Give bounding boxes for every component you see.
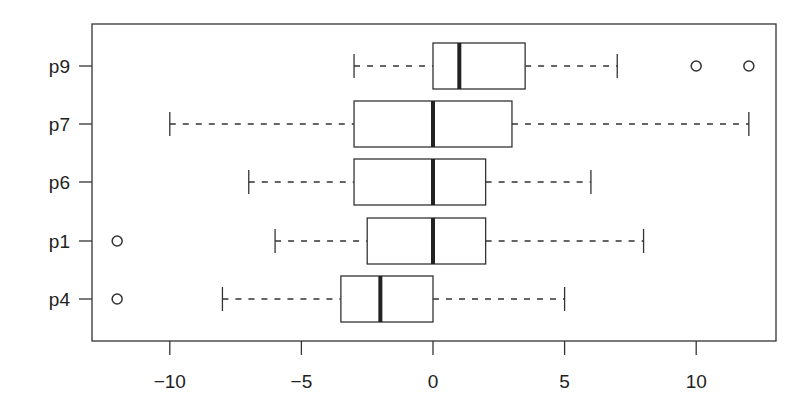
x-tick-label: −10	[154, 371, 186, 392]
y-tick-label: p4	[49, 289, 71, 310]
x-tick-label: 10	[686, 371, 707, 392]
y-axis: p9p7p6p1p4	[49, 56, 92, 310]
box-p1	[112, 218, 643, 264]
box-p9	[354, 43, 754, 89]
boxplot-chart: p9p7p6p1p4 −10−50510	[0, 0, 803, 417]
outlier-point	[691, 61, 701, 71]
outlier-point	[744, 61, 754, 71]
y-tick-label: p7	[49, 114, 70, 135]
box-p6	[249, 159, 591, 205]
iqr-box	[433, 43, 525, 89]
y-tick-label: p6	[49, 172, 70, 193]
box-p7	[170, 101, 749, 147]
x-tick-label: −5	[291, 371, 313, 392]
x-axis: −10−50510	[154, 341, 707, 392]
outlier-point	[112, 294, 122, 304]
box-p4	[112, 276, 564, 322]
iqr-box	[341, 276, 433, 322]
iqr-box	[354, 159, 486, 205]
boxes	[112, 43, 754, 322]
y-tick-label: p1	[49, 231, 70, 252]
x-tick-label: 0	[428, 371, 439, 392]
x-tick-label: 5	[559, 371, 570, 392]
iqr-box	[367, 218, 485, 264]
outlier-point	[112, 236, 122, 246]
y-tick-label: p9	[49, 56, 70, 77]
